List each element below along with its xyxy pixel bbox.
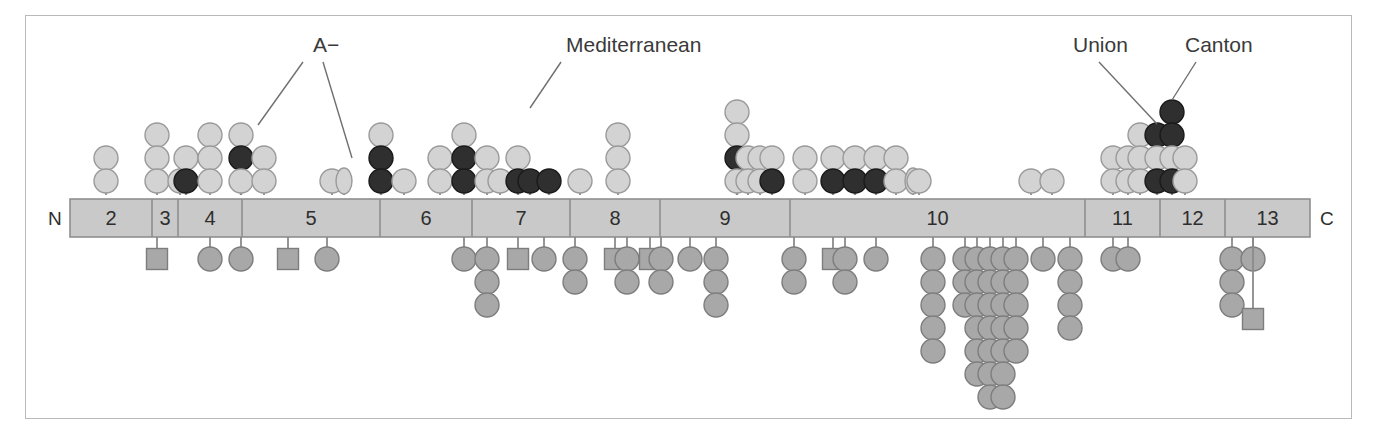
variant-marker-light[interactable]	[336, 168, 352, 194]
variant-marker-light[interactable]	[198, 123, 222, 147]
variant-marker-dark[interactable]	[452, 146, 476, 170]
variant-marker-light[interactable]	[452, 123, 476, 147]
variant-marker-light[interactable]	[884, 146, 908, 170]
variant-marker-light[interactable]	[821, 146, 845, 170]
lower-marker-circle[interactable]	[921, 339, 945, 363]
variant-marker-dark[interactable]	[821, 169, 845, 193]
lower-marker-circle[interactable]	[315, 247, 339, 271]
variant-marker-dark[interactable]	[369, 146, 393, 170]
lower-marker-circle[interactable]	[1058, 247, 1082, 271]
variant-marker-dark[interactable]	[1160, 123, 1184, 147]
lower-marker-circle[interactable]	[991, 362, 1015, 386]
variant-marker-light[interactable]	[1173, 169, 1197, 193]
lower-marker-circle[interactable]	[615, 247, 639, 271]
variant-marker-light[interactable]	[94, 146, 118, 170]
lower-marker-square[interactable]	[1243, 309, 1264, 330]
leader-line-mediterranean	[530, 62, 561, 108]
lower-marker-circle[interactable]	[475, 270, 499, 294]
variant-marker-dark[interactable]	[537, 169, 561, 193]
variant-marker-dark[interactable]	[452, 169, 476, 193]
variant-marker-light[interactable]	[725, 100, 749, 124]
exon-label-13: 13	[1256, 207, 1278, 229]
variant-marker-dark[interactable]	[760, 169, 784, 193]
lower-marker-circle[interactable]	[704, 247, 728, 271]
variant-marker-light[interactable]	[793, 146, 817, 170]
lower-marker-circle[interactable]	[1116, 247, 1140, 271]
variant-marker-light[interactable]	[145, 169, 169, 193]
lower-marker-circle[interactable]	[1058, 293, 1082, 317]
lower-marker-circle[interactable]	[649, 270, 673, 294]
variant-marker-light[interactable]	[229, 169, 253, 193]
variant-marker-light[interactable]	[568, 169, 592, 193]
lower-marker-circle[interactable]	[833, 247, 857, 271]
variant-marker-light[interactable]	[392, 169, 416, 193]
lower-marker-square[interactable]	[147, 249, 168, 270]
variant-marker-light[interactable]	[606, 146, 630, 170]
variant-marker-light[interactable]	[252, 146, 276, 170]
leader-line-A-minus	[258, 62, 303, 125]
variant-marker-dark[interactable]	[174, 169, 198, 193]
exon-label-4: 4	[204, 207, 215, 229]
lower-marker-circle[interactable]	[198, 247, 222, 271]
lower-marker-circle[interactable]	[1004, 247, 1028, 271]
lower-marker-circle[interactable]	[532, 247, 556, 271]
lower-marker-circle[interactable]	[921, 247, 945, 271]
lower-marker-circle[interactable]	[782, 270, 806, 294]
variant-marker-light[interactable]	[428, 169, 452, 193]
variant-marker-light[interactable]	[1040, 169, 1064, 193]
lower-marker-circle[interactable]	[782, 247, 806, 271]
variant-marker-light[interactable]	[1173, 146, 1197, 170]
variant-marker-light[interactable]	[174, 146, 198, 170]
lower-marker-circle[interactable]	[1004, 339, 1028, 363]
variant-marker-light[interactable]	[198, 169, 222, 193]
variant-marker-light[interactable]	[252, 169, 276, 193]
lower-marker-square[interactable]	[508, 249, 529, 270]
lower-marker-circle[interactable]	[833, 270, 857, 294]
lower-marker-circle[interactable]	[1004, 270, 1028, 294]
lower-marker-circle[interactable]	[921, 270, 945, 294]
variant-marker-light[interactable]	[506, 146, 530, 170]
lower-marker-circle[interactable]	[1004, 316, 1028, 340]
lower-marker-circle[interactable]	[563, 270, 587, 294]
lower-marker-circle[interactable]	[1004, 293, 1028, 317]
variant-marker-light[interactable]	[145, 123, 169, 147]
lower-marker-circle[interactable]	[921, 316, 945, 340]
lower-marker-circle[interactable]	[1220, 293, 1244, 317]
lower-marker-circle[interactable]	[1058, 316, 1082, 340]
variant-marker-dark[interactable]	[369, 169, 393, 193]
variant-marker-light[interactable]	[907, 169, 931, 193]
variant-marker-light[interactable]	[198, 146, 222, 170]
variant-marker-light[interactable]	[229, 123, 253, 147]
lower-marker-circle[interactable]	[1220, 270, 1244, 294]
lower-marker-circle[interactable]	[704, 293, 728, 317]
lower-marker-circle[interactable]	[649, 247, 673, 271]
variant-marker-light[interactable]	[793, 169, 817, 193]
lower-marker-circle[interactable]	[991, 385, 1015, 409]
variant-marker-light[interactable]	[475, 146, 499, 170]
lower-marker-circle[interactable]	[452, 247, 476, 271]
exon-label-10: 10	[926, 207, 948, 229]
variant-marker-light[interactable]	[145, 146, 169, 170]
lower-marker-circle[interactable]	[615, 270, 639, 294]
lower-marker-circle[interactable]	[1031, 247, 1055, 271]
lower-marker-circle[interactable]	[678, 247, 702, 271]
lower-marker-circle[interactable]	[229, 247, 253, 271]
variant-marker-light[interactable]	[428, 146, 452, 170]
lower-marker-circle[interactable]	[475, 293, 499, 317]
exon-label-12: 12	[1181, 207, 1203, 229]
lower-marker-circle[interactable]	[475, 247, 499, 271]
variant-marker-light[interactable]	[606, 169, 630, 193]
lower-marker-circle[interactable]	[864, 247, 888, 271]
variant-marker-light[interactable]	[760, 146, 784, 170]
variant-marker-dark[interactable]	[229, 146, 253, 170]
variant-marker-light[interactable]	[369, 123, 393, 147]
lower-marker-circle[interactable]	[704, 270, 728, 294]
variant-marker-light[interactable]	[725, 123, 749, 147]
lower-marker-circle[interactable]	[563, 247, 587, 271]
lower-marker-circle[interactable]	[921, 293, 945, 317]
variant-marker-dark[interactable]	[1160, 100, 1184, 124]
variant-marker-light[interactable]	[606, 123, 630, 147]
lower-marker-square[interactable]	[278, 249, 299, 270]
variant-marker-light[interactable]	[94, 169, 118, 193]
lower-marker-circle[interactable]	[1058, 270, 1082, 294]
